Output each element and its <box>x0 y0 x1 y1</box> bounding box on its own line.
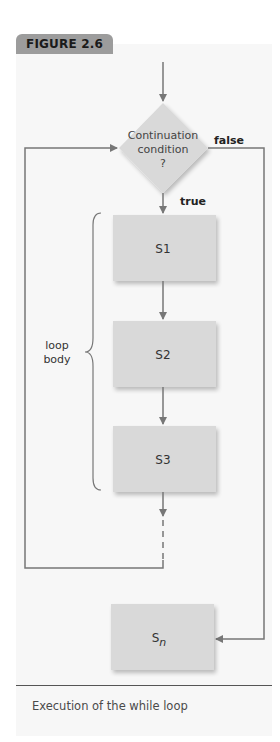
statement-box-s2: S2 <box>113 321 216 387</box>
statement-box-sn: Sn <box>111 604 214 670</box>
condition-line3: ? <box>160 157 166 170</box>
statement-label: S1 <box>155 242 170 256</box>
statement-box-s1: S1 <box>113 215 216 281</box>
statement-label: S2 <box>155 348 170 362</box>
statement-label: S3 <box>155 453 170 467</box>
true-label: true <box>180 195 206 208</box>
condition-line2: condition <box>138 143 189 156</box>
condition-line1: Continuation <box>128 129 199 142</box>
brace-label-line2: body <box>43 353 71 366</box>
false-label: false <box>214 134 244 147</box>
statement-box-s3: S3 <box>113 426 216 492</box>
true-path: true <box>163 193 206 213</box>
while-loop-flowchart: Continuation condition ? false true S1 S… <box>0 0 280 742</box>
caption-divider <box>16 685 272 686</box>
loop-body-brace: loop body <box>43 213 101 490</box>
figure-caption: Execution of the while loop <box>32 699 188 713</box>
false-path: false <box>208 134 264 639</box>
brace-label-line1: loop <box>45 339 69 352</box>
condition-diamond: Continuation condition ? <box>119 103 208 193</box>
